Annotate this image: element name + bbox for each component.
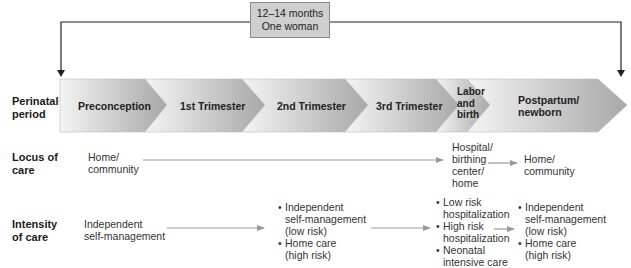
bullet-line: High risk [443, 220, 510, 232]
bullet-line: hospitalization [443, 232, 510, 244]
locus-line: community [88, 163, 139, 175]
row-label-line: Perinatal [12, 95, 58, 108]
row-label-line: of care [12, 231, 57, 244]
intensity-stage-2: Independent self-management (low risk) H… [278, 201, 366, 261]
segment-label-line: Postpartum/ [518, 94, 579, 106]
duration-text: 12–14 months [251, 7, 329, 20]
segment-label-1st-trimester: 1st Trimester [180, 100, 245, 112]
segment-label-3rd-trimester: 3rd Trimester [376, 100, 443, 112]
row-label-perinatal: Perinatal period [12, 95, 58, 121]
intensity-line: Independent [84, 218, 165, 230]
row-label-line: care [12, 164, 58, 177]
locus-line: home [452, 177, 493, 189]
intensity-stage-4: Independent self-management (low risk) H… [518, 201, 606, 261]
bullet-line: (high risk) [525, 249, 606, 261]
segment-label-labor-birth: Labor and birth [457, 86, 485, 121]
locus-line: birthing [452, 153, 493, 165]
intensity-stage-3: Low risk hospitalization High risk hospi… [436, 196, 510, 268]
bullet-item: High risk hospitalization [436, 220, 510, 244]
bullet-line: Low risk [443, 196, 510, 208]
bullet-line: self-management [285, 213, 366, 225]
subject-text: One woman [251, 20, 329, 33]
row-label-locus: Locus of care [12, 151, 58, 177]
bullet-line: Independent [525, 201, 606, 213]
segment-label-line: newborn [518, 106, 579, 118]
bullet-item: Independent self-management (low risk) [518, 201, 606, 237]
segment-label-line: birth [457, 109, 485, 121]
duration-box: 12–14 months One woman [250, 2, 330, 38]
bullet-item: Low risk hospitalization [436, 196, 510, 220]
bullet-line: Neonatal [443, 244, 510, 256]
bullet-item: Neonatal intensive care [436, 244, 510, 268]
row-label-line: period [12, 108, 58, 121]
locus-line: community [524, 165, 575, 177]
row-label-line: Intensity [12, 218, 57, 231]
bullet-line: Home care [525, 237, 606, 249]
bullet-item: Home care (high risk) [518, 237, 606, 261]
intensity-stage-1: Independent self-management [84, 218, 165, 242]
segment-label-line: Labor [457, 86, 485, 98]
bullet-line: (high risk) [285, 249, 366, 261]
locus-stage-1: Home/ community [88, 151, 139, 175]
bullet-line: intensive care [443, 256, 510, 268]
bullet-line: hospitalization [443, 208, 510, 220]
arrow-down-left-icon [57, 70, 65, 77]
locus-line: Home/ [88, 151, 139, 163]
locus-line: Home/ [524, 153, 575, 165]
bullet-line: Home care [285, 237, 366, 249]
segment-label-postpartum: Postpartum/ newborn [518, 94, 579, 118]
locus-stage-2: Hospital/ birthing center/ home [452, 141, 493, 189]
bullet-item: Independent self-management (low risk) [278, 201, 366, 237]
locus-line: Hospital/ [452, 141, 493, 153]
segment-label-2nd-trimester: 2nd Trimester [277, 100, 346, 112]
arrow-down-right-icon [617, 70, 625, 77]
bullet-line: Independent [285, 201, 366, 213]
duration-bracket [57, 22, 625, 77]
row-label-line: Locus of [12, 151, 58, 164]
locus-line: center/ [452, 165, 493, 177]
segment-label-preconception: Preconception [78, 100, 151, 112]
bullet-line: (low risk) [285, 225, 366, 237]
bullet-line: (low risk) [525, 225, 606, 237]
bullet-line: self-management [525, 213, 606, 225]
bullet-item: Home care (high risk) [278, 237, 366, 261]
row-label-intensity: Intensity of care [12, 218, 57, 244]
locus-stage-3: Home/ community [524, 153, 575, 177]
segment-label-line: and [457, 98, 485, 110]
intensity-line: self-management [84, 230, 165, 242]
